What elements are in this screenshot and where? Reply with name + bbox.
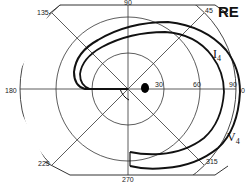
visual-field-chart: 90 45 135 180 0 225 270 315 30 60 90 RE … (0, 0, 247, 182)
label-225: 225 (38, 160, 50, 167)
label-270: 270 (122, 176, 134, 182)
label-135: 135 (37, 9, 49, 16)
label-ecc-30: 30 (155, 81, 163, 88)
label-0: 0 (241, 87, 245, 94)
blind-spot (141, 83, 149, 93)
label-315: 315 (206, 158, 218, 165)
label-ecc-90: 90 (229, 81, 237, 88)
isopter-label-v4: V4 (227, 130, 240, 146)
label-45: 45 (205, 7, 213, 14)
label-180: 180 (5, 87, 17, 94)
label-ecc-60: 60 (193, 81, 201, 88)
isopter-v4 (74, 22, 240, 169)
isopter-label-i4: I4 (213, 47, 221, 63)
label-90: 90 (124, 0, 132, 6)
eye-label: RE (218, 3, 239, 20)
isopter-i4 (80, 32, 224, 154)
